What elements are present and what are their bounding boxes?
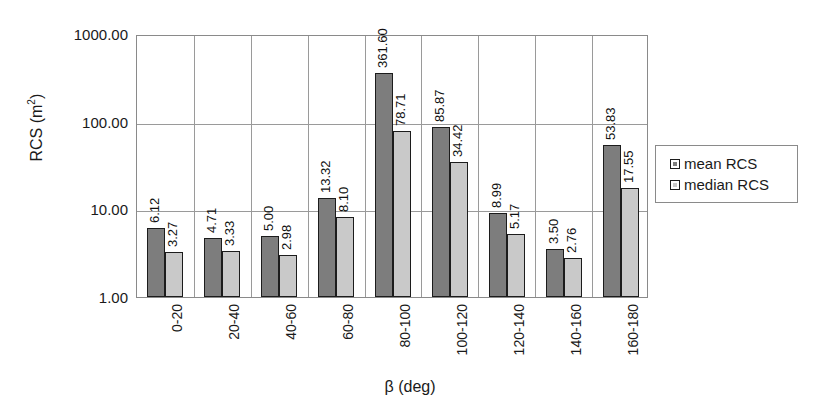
x-axis-title: β (deg) — [310, 378, 510, 396]
bar-value-label: 2.98 — [280, 225, 293, 250]
rcs-bar-chart: RCS (m2) 1000.00100.0010.001.00 6.123.27… — [0, 0, 835, 415]
x-axis-tick-8: 160-180 — [626, 304, 640, 355]
bar-value-label: 361.60 — [376, 28, 389, 68]
bar-group: 13.328.10 — [308, 36, 365, 297]
x-axis-tick-7: 140-160 — [569, 304, 583, 355]
legend: mean RCS median RCS — [655, 145, 798, 203]
bar-value-label: 3.27 — [166, 222, 179, 247]
y-axis-tick-1: 100.00 — [36, 115, 128, 130]
y-axis-tick-2: 10.00 — [36, 202, 128, 217]
bar-mean-rcs[interactable]: 3.50 — [546, 249, 564, 297]
x-axis-tick-0: 0-20 — [170, 304, 184, 332]
bar-value-label: 53.83 — [604, 108, 617, 141]
bar-group: 85.8734.42 — [421, 36, 478, 297]
bar-value-label: 5.00 — [262, 205, 275, 230]
bar-mean-rcs[interactable]: 6.12 — [147, 228, 165, 297]
bar-mean-rcs[interactable]: 13.32 — [318, 198, 336, 297]
bar-median-rcs[interactable]: 78.71 — [393, 131, 411, 297]
bar-group: 4.713.33 — [194, 36, 251, 297]
bar-median-rcs[interactable]: 3.27 — [165, 252, 183, 297]
bar-median-rcs[interactable]: 2.76 — [564, 258, 582, 297]
legend-label-median-rcs: median RCS — [684, 177, 769, 192]
bar-value-label: 8.99 — [490, 183, 503, 208]
x-axis-tick-2: 40-60 — [284, 304, 298, 340]
bar-value-label: 17.55 — [622, 150, 635, 183]
bar-value-label: 13.32 — [319, 161, 332, 194]
bar-value-label: 8.10 — [337, 187, 350, 212]
bar-mean-rcs[interactable]: 5.00 — [261, 236, 279, 297]
x-axis-tick-5: 100-120 — [455, 304, 469, 355]
bar-value-label: 78.71 — [394, 93, 407, 126]
bar-median-rcs[interactable]: 8.10 — [336, 217, 354, 297]
legend-entry-mean-rcs[interactable]: mean RCS — [670, 153, 797, 174]
bar-group: 6.123.27 — [137, 36, 194, 297]
x-axis-tick-1: 20-40 — [227, 304, 241, 340]
plot-area: 6.123.274.713.335.002.9813.328.10361.607… — [136, 35, 648, 298]
bar-group: 361.6078.71 — [365, 36, 422, 297]
y-axis-tick-0: 1000.00 — [36, 27, 128, 42]
y-axis-title-close: ) — [28, 94, 45, 99]
legend-label-mean-rcs: mean RCS — [684, 156, 757, 171]
bar-value-label: 5.17 — [508, 204, 521, 229]
bar-mean-rcs[interactable]: 53.83 — [603, 145, 621, 297]
bar-value-label: 85.87 — [433, 90, 446, 123]
bar-value-label: 6.12 — [148, 198, 161, 223]
bar-group: 3.502.76 — [535, 36, 592, 297]
dark-gray-swatch-icon — [670, 159, 680, 169]
x-axis-tick-4: 80-100 — [398, 304, 412, 348]
bar-mean-rcs[interactable]: 85.87 — [432, 127, 450, 297]
y-axis-tick-3: 1.00 — [36, 290, 128, 305]
bar-value-label: 2.76 — [565, 228, 578, 253]
bar-median-rcs[interactable]: 17.55 — [621, 188, 639, 297]
x-axis-tick-3: 60-80 — [341, 304, 355, 340]
bar-mean-rcs[interactable]: 8.99 — [489, 213, 507, 297]
x-axis-tick-6: 120-140 — [512, 304, 526, 355]
bar-value-label: 4.71 — [205, 208, 218, 233]
bar-median-rcs[interactable]: 34.42 — [450, 162, 468, 297]
bar-value-label: 3.33 — [223, 221, 236, 246]
bar-group: 8.995.17 — [478, 36, 535, 297]
bar-value-label: 3.50 — [547, 219, 560, 244]
bar-value-label: 34.42 — [451, 125, 464, 158]
y-axis-title-text: RCS (m — [28, 105, 45, 162]
bar-median-rcs[interactable]: 5.17 — [507, 234, 525, 297]
bar-group: 5.002.98 — [251, 36, 308, 297]
light-gray-swatch-icon — [670, 180, 680, 190]
bar-mean-rcs[interactable]: 4.71 — [204, 238, 222, 297]
legend-entry-median-rcs[interactable]: median RCS — [670, 174, 797, 195]
bar-median-rcs[interactable]: 2.98 — [279, 255, 297, 297]
bar-group: 53.8317.55 — [592, 36, 649, 297]
y-axis-title-superscript: 2 — [26, 99, 37, 105]
bar-median-rcs[interactable]: 3.33 — [222, 251, 240, 297]
bar-mean-rcs[interactable]: 361.60 — [375, 73, 393, 297]
